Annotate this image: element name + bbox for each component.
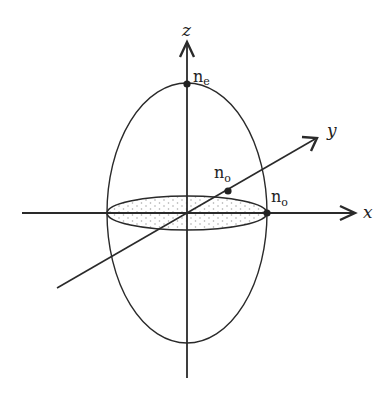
no-y-label: no xyxy=(214,163,231,185)
ne-label: ne xyxy=(193,67,210,88)
no-point-x xyxy=(263,209,270,216)
y-axis-label: y xyxy=(326,120,337,140)
no-x-label-base: n xyxy=(271,187,281,206)
z-axis-label: z xyxy=(181,20,192,40)
index-ellipsoid-diagram: z x y ne no no xyxy=(0,0,388,408)
no-point-y xyxy=(224,187,231,194)
no-y-label-base: n xyxy=(214,163,224,182)
x-axis-label: x xyxy=(363,202,373,222)
no-x-label-sub: o xyxy=(281,196,288,209)
no-y-label-sub: o xyxy=(224,172,231,185)
no-x-label: no xyxy=(271,187,288,209)
ne-label-sub: e xyxy=(203,75,210,88)
ne-point xyxy=(183,80,190,87)
ne-label-base: n xyxy=(193,67,203,86)
